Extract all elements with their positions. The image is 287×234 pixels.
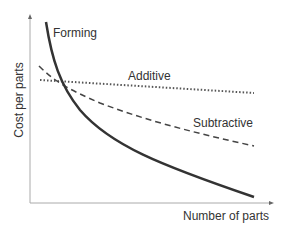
x-axis-label: Number of parts (183, 209, 269, 223)
x-axis-arrow-icon (269, 201, 274, 205)
cost-chart: Forming Additive Subtractive Number of p… (0, 0, 287, 234)
series-forming (46, 22, 254, 197)
y-axis-arrow-icon (28, 14, 32, 19)
label-forming: Forming (53, 26, 97, 40)
label-additive: Additive (128, 69, 171, 83)
label-subtractive: Subtractive (193, 116, 253, 130)
y-axis-label: Cost per parts (12, 62, 26, 137)
